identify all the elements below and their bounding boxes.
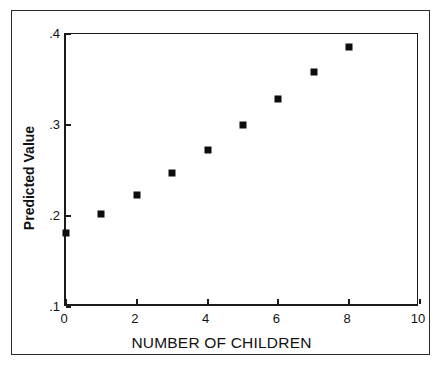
x-axis-tick-mark	[65, 299, 67, 304]
y-axis-tick-mark	[66, 215, 71, 217]
y-axis-tick-mark	[66, 124, 71, 126]
data-point	[169, 170, 176, 177]
data-point	[275, 95, 282, 102]
plot-area	[64, 33, 418, 306]
data-point	[240, 122, 247, 129]
x-axis-tick-mark	[136, 299, 138, 304]
data-point	[346, 43, 353, 50]
y-axis-tick-mark	[66, 306, 71, 308]
data-point	[98, 211, 105, 218]
y-axis-title: Predicted Value	[21, 108, 37, 248]
x-axis-tick-mark	[419, 299, 421, 304]
scatter-plot-figure: .1.2.3.4 0246810 Predicted Value NUMBER …	[0, 0, 443, 369]
data-point	[204, 147, 211, 154]
data-point	[310, 69, 317, 76]
x-axis-tick-mark	[277, 299, 279, 304]
x-axis-tick-mark	[207, 299, 209, 304]
data-point	[133, 192, 140, 199]
y-axis-tick-mark	[66, 33, 71, 35]
data-point	[63, 230, 70, 237]
x-axis-tick-mark	[348, 299, 350, 304]
x-axis-title: NUMBER OF CHILDREN	[0, 334, 443, 352]
